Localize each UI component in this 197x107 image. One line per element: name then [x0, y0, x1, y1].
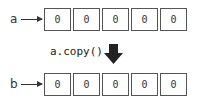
array-cell: 0 [44, 8, 71, 31]
array-cell: 0 [102, 73, 129, 96]
array-cell: 0 [102, 8, 129, 31]
array-cell: 0 [160, 73, 187, 96]
source-array: 0 0 0 0 0 [44, 8, 187, 31]
target-label: b [10, 77, 18, 91]
operation-label: a.copy() [50, 45, 103, 58]
array-cell: 0 [131, 73, 158, 96]
source-pointer-arrow-icon [21, 19, 42, 20]
array-cell: 0 [44, 73, 71, 96]
source-label: a [10, 12, 17, 26]
array-cell: 0 [131, 8, 158, 31]
array-cell: 0 [73, 73, 100, 96]
target-array: 0 0 0 0 0 [44, 73, 187, 96]
down-arrow-icon [104, 44, 123, 64]
array-cell: 0 [73, 8, 100, 31]
target-pointer-arrow-icon [21, 84, 42, 85]
array-cell: 0 [160, 8, 187, 31]
